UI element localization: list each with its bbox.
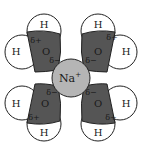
oxygen-label: O [94, 98, 102, 109]
oxygen-label: O [41, 98, 49, 109]
hydrogen-label: H [122, 98, 131, 109]
water-molecule-bottom-right: H H δ+ O δ− [81, 84, 137, 141]
delta-plus-label: δ+ [28, 113, 40, 122]
hydrogen-label: H [40, 127, 49, 138]
water-molecule-bottom-left: H H δ+ O δ− [5, 84, 61, 141]
ion-charge: + [75, 71, 81, 79]
hydrogen-label: H [122, 46, 131, 57]
water-molecule-top-left: H H δ+ O δ− [5, 14, 61, 72]
delta-minus-label: δ− [85, 88, 97, 97]
ion-symbol: Na [59, 72, 76, 85]
hydration-diagram: H H δ+ O δ− H H δ+ O δ− H H δ+ O δ− H H … [0, 0, 142, 154]
delta-plus-label: δ+ [106, 33, 118, 42]
delta-plus-label: δ+ [30, 36, 42, 45]
water-molecule-top-right: H H δ+ O δ− [81, 14, 137, 72]
delta-minus-label: δ− [85, 56, 97, 65]
hydrogen-label: H [12, 98, 21, 109]
hydrogen-label: H [12, 46, 21, 57]
hydrogen-label: H [94, 127, 103, 138]
sodium-ion: Na+ [52, 59, 90, 97]
hydrogen-label: H [40, 19, 49, 30]
hydrogen-label: H [94, 19, 103, 30]
delta-plus-label: δ+ [105, 113, 117, 122]
